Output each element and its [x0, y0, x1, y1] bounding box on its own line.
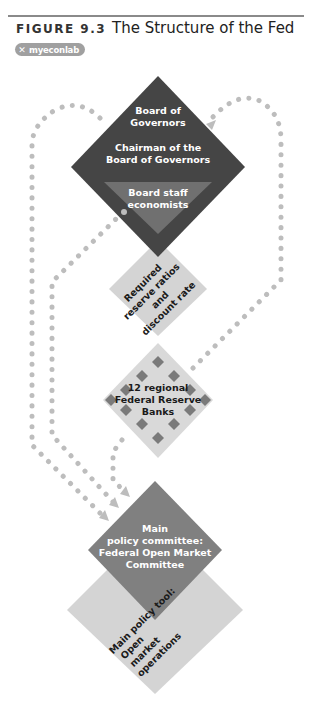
banks-label-line2: Federal Reserve — [115, 394, 202, 405]
staff-label-line2: economists — [128, 199, 189, 210]
reserve-tools-label: Required reserve ratios and discount rat… — [112, 252, 198, 338]
board-label-line2: Governors — [130, 117, 186, 128]
connector-banks-to-fomc — [113, 440, 126, 493]
staff-label-line1: Board staff — [128, 187, 188, 198]
banks-label-line3: Banks — [142, 406, 175, 417]
fed-structure-diagram: Board of Governors Chairman of the Board… — [0, 0, 312, 724]
fomc-label-line2: policy committee: — [107, 535, 203, 546]
staff-dot — [121, 209, 127, 215]
fomc-label-line4: Committee — [126, 559, 185, 570]
chairman-label-line2: Board of Governors — [106, 154, 211, 165]
fomc-label-line3: Federal Open Market — [99, 547, 212, 558]
board-label-line1: Board of — [135, 105, 181, 116]
fomc-label-line1: Main — [142, 523, 168, 534]
chairman-label-line1: Chairman of the — [115, 142, 201, 153]
banks-label-line1: 12 regional — [128, 382, 189, 393]
arrowhead-icon — [109, 497, 119, 508]
